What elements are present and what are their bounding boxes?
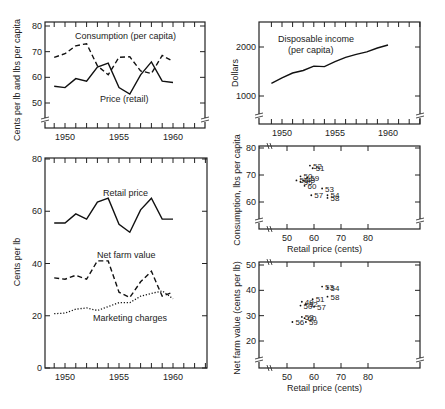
- point-label: 58: [331, 293, 340, 302]
- chart-consumption_vs_price: 607080Consumption, lbs per capita5060708…: [232, 134, 424, 254]
- point-label: 58: [331, 194, 340, 203]
- scatter-point: [327, 197, 329, 199]
- x-tick-label: 80: [363, 372, 373, 382]
- y-tick-label: 60: [32, 206, 42, 216]
- point-label: 57: [317, 303, 326, 312]
- series-annotation: Disposable income: [278, 34, 354, 44]
- series-line: [54, 291, 173, 314]
- series-annotation: (per capita): [288, 45, 334, 55]
- series-annotation: Retail price: [103, 188, 148, 198]
- scatter-point: [309, 165, 311, 167]
- scatter-point: [306, 177, 308, 179]
- x-tick-label: 50: [282, 233, 292, 243]
- scatter-point: [327, 194, 329, 196]
- scatter-point: [300, 305, 302, 307]
- plot-frame: [259, 146, 420, 229]
- x-tick-label: 70: [336, 372, 346, 382]
- y-tick-label: 2000: [236, 42, 256, 52]
- point-label: 53: [305, 313, 314, 322]
- x-tick-label: 1955: [109, 132, 129, 142]
- series-annotation: Price (retail): [100, 94, 149, 104]
- scatter-point: [321, 286, 323, 288]
- y-tick-label: 40: [32, 259, 42, 269]
- y-tick-label: 80: [246, 143, 256, 153]
- x-tick-label: 1955: [109, 372, 129, 382]
- y-tick-label: 40: [246, 285, 256, 295]
- y-axis-label: Net farm value (cents per lb): [232, 261, 242, 375]
- series-annotation: Marketing charges: [93, 313, 168, 323]
- scatter-point: [301, 316, 303, 318]
- y-tick-label: 70: [246, 170, 256, 180]
- scatter-point: [321, 188, 323, 190]
- y-tick-label: 20: [246, 336, 256, 346]
- y-tick-label: 60: [246, 197, 256, 207]
- y-tick-label: 80: [32, 154, 42, 164]
- series-line: [54, 44, 173, 75]
- scatter-point: [305, 303, 307, 305]
- y-axis-label: Cents per lb and lbs per capita: [12, 19, 22, 141]
- scatter-point: [292, 321, 294, 323]
- plot-frame: [259, 262, 420, 368]
- y-tick-label: 20: [32, 311, 42, 321]
- scatter-point: [313, 306, 315, 308]
- y-tick-label: 50: [32, 98, 42, 108]
- x-tick-label: 1950: [272, 128, 292, 138]
- scatter-point: [327, 296, 329, 298]
- chart-farmvalue_vs_price: 20304050Net farm value (cents per lb)506…: [232, 259, 424, 393]
- x-tick-label: 1960: [163, 132, 183, 142]
- x-tick-label: 60: [309, 233, 319, 243]
- scatter-point: [310, 194, 312, 196]
- y-tick-label: 1000: [236, 91, 256, 101]
- scatter-point: [327, 287, 329, 289]
- point-label: 57: [314, 191, 323, 200]
- x-tick-label: 80: [363, 233, 373, 243]
- point-label: 56: [295, 318, 304, 327]
- x-tick-label: 1950: [55, 132, 75, 142]
- x-tick-label: 1960: [378, 128, 398, 138]
- scatter-point: [301, 301, 303, 303]
- x-axis-label: Retail price (cents): [287, 383, 362, 393]
- x-tick-label: 50: [282, 372, 292, 382]
- scatter-point: [304, 185, 306, 187]
- series-annotation: Net farm value: [97, 250, 156, 260]
- point-label: 54: [331, 284, 340, 293]
- scatter-point: [296, 180, 298, 182]
- y-tick-label: 30: [246, 311, 256, 321]
- series-annotation: Consumption (per capita): [75, 31, 176, 41]
- y-axis-label: Consumption, lbs per capita: [232, 134, 242, 246]
- figure: 50607080Cents per lb and lbs per capita1…: [0, 0, 445, 409]
- x-tick-label: 70: [336, 233, 346, 243]
- series-line: [54, 198, 173, 232]
- y-tick-label: 80: [32, 21, 42, 31]
- y-axis-label: Dollars: [230, 59, 240, 88]
- x-axis-label: Retail price (cents): [287, 244, 362, 254]
- point-label: 60: [308, 182, 317, 191]
- x-tick-label: 1950: [55, 372, 75, 382]
- x-tick-label: 60: [309, 372, 319, 382]
- chart-canvas: 50607080Cents per lb and lbs per capita1…: [0, 0, 445, 409]
- x-tick-label: 1960: [163, 372, 183, 382]
- y-tick-label: 60: [32, 72, 42, 82]
- y-axis-label: Cents per lb: [12, 238, 22, 287]
- y-tick-label: 0: [37, 363, 42, 373]
- y-tick-label: 50: [246, 260, 256, 270]
- x-tick-label: 1955: [325, 128, 345, 138]
- y-tick-label: 70: [32, 47, 42, 57]
- point-label: 52: [313, 162, 322, 171]
